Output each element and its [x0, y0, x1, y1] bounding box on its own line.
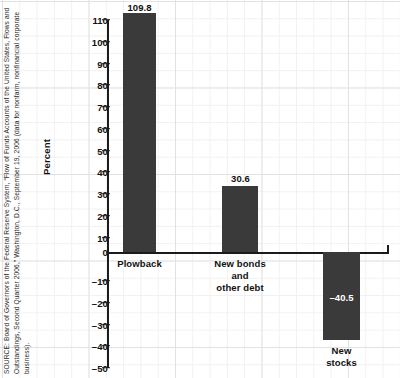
y-tick-neg10: –10: [62, 281, 108, 282]
y-tick-30: 30: [62, 194, 108, 195]
category-label-line: New: [302, 345, 381, 357]
category-label-new-stocks: New stocks: [302, 345, 381, 369]
y-tick-label-0: 0: [68, 247, 108, 258]
y-axis-line: [107, 20, 109, 368]
y-tick-10: 10: [62, 238, 108, 239]
y-tick-80: 80: [62, 85, 108, 86]
y-tick-neg20: –20: [62, 303, 108, 304]
category-label-line: other debt: [200, 282, 280, 294]
value-label-new-bonds: 30.6: [212, 173, 269, 184]
category-label-plowback: Plowback: [100, 258, 179, 270]
y-tick-neg50: –50: [62, 368, 108, 369]
y-tick-neg30: –30: [62, 325, 108, 326]
category-label-new-bonds: New bonds and other debt: [200, 258, 280, 294]
y-tick-100: 100: [62, 42, 108, 43]
y-tick-60: 60: [62, 129, 108, 130]
category-label-line: stocks: [302, 357, 381, 369]
plot-area: 110 100 90 80 70 60 50 40: [0, 0, 400, 378]
y-tick-110: 110: [62, 20, 108, 21]
bar-new-bonds: [222, 186, 258, 253]
bar-chart-figure: SOURCE: Board of Governors of the Federa…: [0, 0, 400, 378]
value-label-plowback: 109.8: [111, 2, 168, 13]
y-tick-70: 70: [62, 107, 108, 108]
category-label-line: New bonds: [200, 258, 280, 270]
axis-end-cap: [387, 245, 389, 253]
y-tick-neg40: –40: [62, 346, 108, 347]
y-tick-50: 50: [62, 151, 108, 152]
category-label-line: Plowback: [100, 258, 179, 270]
y-tick-40: 40: [62, 172, 108, 173]
category-label-line: and: [200, 270, 280, 282]
y-tick-20: 20: [62, 216, 108, 217]
value-label-new-stocks: –40.5: [313, 292, 370, 303]
bar-plowback: [123, 13, 156, 252]
y-tick-90: 90: [62, 64, 108, 65]
